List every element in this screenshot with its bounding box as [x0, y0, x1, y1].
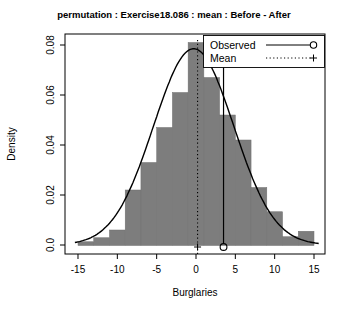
histogram-bar: [141, 163, 157, 246]
x-tick-label: -5: [152, 264, 161, 275]
legend: ObservedMean: [204, 36, 325, 68]
legend-circle-icon: [310, 42, 316, 48]
histogram-bar: [251, 188, 267, 246]
chart-svg: permutation : Exercise18.086 : mean : Be…: [0, 0, 349, 309]
y-axis: 0.00.020.040.060.08: [45, 35, 65, 252]
x-tick-label: 0: [193, 264, 199, 275]
histogram-bar: [235, 140, 251, 246]
x-tick-label: 15: [308, 264, 320, 275]
histogram-bar: [109, 230, 125, 246]
y-tick-label: 0.0: [45, 238, 56, 252]
histogram-bar: [298, 231, 314, 245]
histogram-bar: [94, 238, 110, 246]
y-tick-label: 0.04: [45, 135, 56, 155]
x-tick-label: -15: [71, 264, 86, 275]
histogram-bar: [172, 93, 188, 246]
y-tick-label: 0.02: [45, 185, 56, 205]
x-tick-label: -10: [110, 264, 125, 275]
histogram-bars: [78, 43, 314, 246]
histogram-bar: [188, 43, 204, 246]
x-axis-title: Burglaries: [172, 287, 217, 298]
histogram-bar: [157, 128, 173, 246]
histogram-bar: [267, 212, 283, 246]
legend-label: Observed: [210, 39, 256, 51]
x-axis: -15-10-5051015: [71, 254, 320, 275]
histogram-bar: [220, 115, 236, 246]
histogram-bar: [125, 190, 141, 246]
legend-label: Mean: [210, 52, 236, 64]
x-tick-label: 5: [233, 264, 239, 275]
permutation-histogram-figure: permutation : Exercise18.086 : mean : Be…: [0, 0, 349, 309]
x-tick-label: 10: [269, 264, 281, 275]
y-tick-label: 0.08: [45, 35, 56, 55]
histogram-bar: [204, 78, 220, 246]
y-axis-title: Density: [6, 127, 17, 160]
histogram-bar: [78, 242, 94, 246]
chart-title: permutation : Exercise18.086 : mean : Be…: [57, 9, 291, 20]
y-tick-label: 0.06: [45, 85, 56, 105]
